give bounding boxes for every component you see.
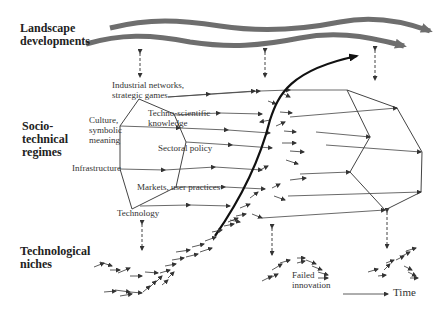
level-label-niches: Technological niches (20, 245, 90, 271)
label-markets: Markets, user practices (137, 182, 220, 192)
label-culture: Culture, symbolic meaning (89, 115, 122, 145)
label-technology: Technology (117, 208, 159, 218)
label-infrastructure: Infrastructure (72, 163, 121, 173)
label-time: Time (393, 286, 416, 298)
label-techno-scientific: Techno-scientific knowledge (148, 108, 210, 128)
right-niche-arrows (368, 248, 418, 278)
level-label-landscape: Landscape developments (20, 22, 90, 48)
level-label-regimes: Socio- technical regimes (22, 120, 68, 159)
turbulence-arrows (228, 93, 306, 222)
landscape-waves (86, 19, 430, 46)
label-industrial-networks: Industrial networks, strategic games (112, 80, 184, 100)
label-sectoral-policy: Sectoral policy (158, 143, 212, 153)
label-failed-innovation: Failed innovation (292, 270, 331, 290)
